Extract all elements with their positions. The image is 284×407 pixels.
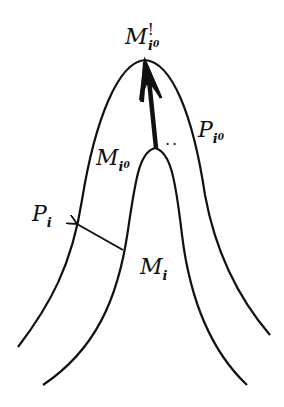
label-M-i0: Mi0 bbox=[96, 147, 130, 169]
outer-curve bbox=[18, 60, 270, 347]
label-P-i: Pi bbox=[32, 203, 52, 225]
label-P-i0: Pi0 bbox=[198, 119, 224, 141]
diagram-figure: M!i0 Pi0 .. Mi0 Pi Mi bbox=[0, 0, 284, 407]
dots: .. bbox=[165, 132, 179, 148]
thin-arrow bbox=[77, 224, 123, 250]
label-M-i: Mi bbox=[140, 256, 167, 278]
label-M-prime-i0: M!i0 bbox=[125, 26, 159, 48]
thick-arrow bbox=[140, 60, 161, 148]
